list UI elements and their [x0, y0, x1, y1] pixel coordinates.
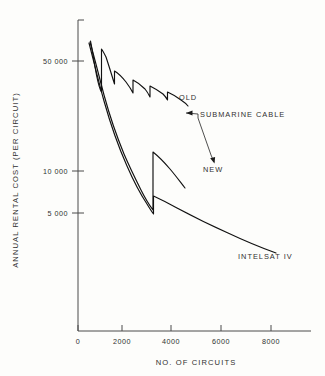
annotation-submarine-cable: SUBMARINE CABLE — [200, 110, 285, 119]
series-intelsat-iv — [89, 43, 276, 253]
x-tick-label-2000: 2000 — [113, 337, 131, 346]
new-cable-leader-line — [198, 114, 214, 162]
figure-canvas: 50 000 10 000 5 000 0 2000 4000 6000 800… — [0, 0, 325, 376]
x-tick-label-6000: 6000 — [212, 337, 230, 346]
x-tick-label-0: 0 — [76, 337, 81, 346]
y-axis-title: ANNUAL RENTAL COST (PER CIRCUIT) — [11, 92, 20, 268]
y-tick-label-10000: 10 000 — [43, 167, 68, 176]
old-cable-arrowhead — [186, 111, 193, 116]
new-cable-arrowhead — [210, 157, 215, 163]
axis-lines — [78, 20, 311, 331]
x-tick-label-8000: 8000 — [262, 337, 280, 346]
y-tick-label-50000: 50 000 — [43, 57, 68, 66]
series-new-submarine-cable — [90, 42, 185, 210]
series-old-submarine-cable — [91, 41, 189, 106]
x-tick-label-4000: 4000 — [162, 337, 180, 346]
chart-plot: 50 000 10 000 5 000 0 2000 4000 6000 800… — [0, 0, 325, 376]
annotation-intelsat-iv: INTELSAT IV — [238, 252, 293, 261]
annotation-old: OLD — [179, 93, 197, 102]
y-tick-label-5000: 5 000 — [48, 209, 69, 218]
annotation-new: NEW — [203, 165, 223, 174]
x-axis-title: NO. OF CIRCUITS — [156, 358, 237, 367]
